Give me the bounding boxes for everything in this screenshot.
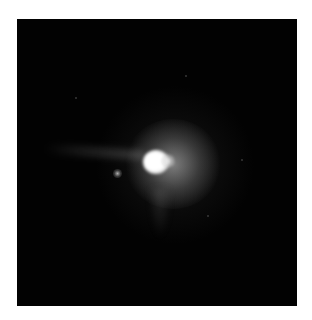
primary-source-lobe bbox=[161, 154, 175, 168]
primary-source-core bbox=[143, 150, 169, 174]
companion-source bbox=[113, 169, 122, 178]
background-speck bbox=[75, 97, 77, 99]
background-speck bbox=[207, 215, 209, 217]
halo-extension bbox=[149, 189, 171, 239]
background-speck bbox=[185, 75, 187, 77]
astronomical-image-frame bbox=[17, 19, 297, 306]
outer-halo bbox=[95, 85, 255, 245]
inner-halo bbox=[125, 119, 221, 209]
background-speck bbox=[241, 159, 243, 161]
faint-streak bbox=[45, 144, 145, 161]
